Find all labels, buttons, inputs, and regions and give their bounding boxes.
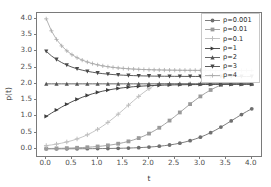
legend-label: p=2 <box>223 54 237 61</box>
x-tick-label: 3.5 <box>219 159 230 166</box>
legend-label: p=1 <box>223 45 237 52</box>
y-tick-label: 2.0 <box>0 79 32 86</box>
legend-item-p-0-1[interactable]: p=0.1 <box>204 34 256 43</box>
series-p-0-01 <box>44 82 253 150</box>
figure-canvas: p(t) t 0.00.51.01.52.02.53.03.54.0 0.00.… <box>0 0 271 187</box>
series-line <box>46 84 252 146</box>
legend-marker-triangle-right-icon <box>204 44 221 53</box>
legend-label: p=3 <box>223 63 237 70</box>
legend-marker-triangle-up-icon <box>204 53 221 62</box>
y-tick-label: 4.0 <box>0 14 32 21</box>
y-tick-label: 0.0 <box>0 144 32 151</box>
legend-item-p-0-001[interactable]: p=0.001 <box>204 16 256 25</box>
series-p-0-1 <box>44 82 254 148</box>
x-tick-label: 1.5 <box>117 159 128 166</box>
series-p-0-001 <box>44 107 253 151</box>
x-tick-label: 0.0 <box>40 159 51 166</box>
x-axis-label: t <box>36 174 262 183</box>
x-tick-label: 1.0 <box>91 159 102 166</box>
legend-marker-square-icon <box>204 25 221 34</box>
y-tick-label: 1.5 <box>0 95 32 102</box>
legend-marker-triangle-down-icon <box>204 62 221 71</box>
legend-item-p-1[interactable]: p=1 <box>204 44 256 53</box>
legend-item-p-2[interactable]: p=2 <box>204 53 256 62</box>
legend-marker-plus-icon <box>204 34 221 43</box>
legend-label: p=0.1 <box>223 36 243 43</box>
x-tick-label: 3.0 <box>194 159 205 166</box>
legend-item-p-4[interactable]: p=4 <box>204 71 256 80</box>
legend-marker-circle-icon <box>204 16 221 25</box>
x-tick-label: 2.5 <box>168 159 179 166</box>
x-tick-label: 0.5 <box>65 159 76 166</box>
y-tick-label: 3.5 <box>0 30 32 37</box>
x-tick-label: 2.0 <box>142 159 153 166</box>
x-tick-label: 4.0 <box>245 159 256 166</box>
legend-label: p=0.001 <box>223 17 252 24</box>
y-tick-label: 1.0 <box>0 112 32 119</box>
legend-label: p=4 <box>223 72 237 79</box>
y-tick-label: 0.5 <box>0 128 32 135</box>
legend-item-p-3[interactable]: p=3 <box>204 62 256 71</box>
legend-marker-plus-thin-icon <box>204 71 221 80</box>
legend-label: p=0.01 <box>223 26 247 33</box>
y-tick-label: 2.5 <box>0 63 32 70</box>
legend: p=0.001p=0.01p=0.1p=1p=2p=3p=4 <box>201 13 260 83</box>
legend-item-p-0-01[interactable]: p=0.01 <box>204 25 256 34</box>
y-tick-label: 3.0 <box>0 47 32 54</box>
